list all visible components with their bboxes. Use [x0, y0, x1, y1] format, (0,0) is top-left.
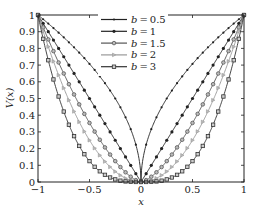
- marker-circle-icon: [62, 72, 66, 76]
- marker-square-icon: [62, 110, 65, 113]
- y-tick-label: 0.4: [19, 110, 35, 121]
- marker-circle-icon: [232, 38, 236, 42]
- marker-square-icon: [88, 159, 91, 162]
- marker-triangle-icon: [196, 130, 199, 134]
- marker-square-icon: [170, 176, 173, 179]
- marker-circle-icon: [83, 112, 87, 116]
- marker-dot-icon: [150, 164, 153, 167]
- marker-square-icon: [93, 165, 96, 168]
- x-tick-label: 1: [241, 184, 247, 195]
- marker-square-icon: [108, 176, 111, 179]
- marker-square-icon: [206, 134, 209, 137]
- x-tick-label: 0.5: [185, 184, 201, 195]
- marker-dot-icon: [176, 82, 178, 84]
- marker-square-icon: [41, 37, 44, 40]
- chart: −1−0.500.5100.10.20.30.40.50.60.70.80.91…: [0, 0, 253, 211]
- marker-dot-icon: [181, 114, 184, 117]
- marker-dot-icon: [47, 30, 50, 33]
- marker-circle-icon: [103, 146, 107, 150]
- marker-circle-icon: [175, 146, 179, 150]
- marker-circle-icon: [119, 165, 123, 169]
- marker-dot-icon: [103, 122, 106, 125]
- marker-dot-icon: [52, 38, 55, 41]
- marker-dot-icon: [212, 41, 214, 43]
- marker-dot-icon: [232, 30, 235, 33]
- marker-dot-icon: [78, 80, 81, 83]
- legend: b = 0.5b = 1b = 1.5b = 2b = 3: [98, 14, 168, 76]
- marker-dot-icon: [150, 128, 152, 130]
- marker-dot-icon: [114, 139, 117, 142]
- marker-circle-icon: [191, 121, 195, 125]
- marker-square-icon: [72, 134, 75, 137]
- marker-dot-icon: [160, 147, 163, 150]
- marker-square-icon: [112, 65, 115, 68]
- marker-dot-icon: [222, 47, 225, 50]
- marker-square-icon: [191, 159, 194, 162]
- marker-dot-icon: [191, 63, 193, 65]
- marker-dot-icon: [222, 32, 224, 34]
- marker-dot-icon: [238, 18, 240, 20]
- marker-circle-icon: [88, 121, 92, 125]
- marker-square-icon: [47, 59, 50, 62]
- marker-dot-icon: [124, 155, 127, 158]
- marker-dot-icon: [175, 122, 178, 125]
- marker-dot-icon: [98, 114, 101, 117]
- marker-dot-icon: [129, 164, 132, 167]
- marker-circle-icon: [211, 82, 215, 86]
- marker-dot-icon: [196, 89, 199, 92]
- marker-dot-icon: [58, 32, 60, 34]
- marker-square-icon: [155, 180, 158, 183]
- legend-label: b = 3: [131, 61, 156, 72]
- marker-circle-icon: [129, 175, 133, 179]
- legend-label: b = 0.5: [131, 14, 166, 25]
- x-tick-label: 0: [138, 184, 144, 195]
- marker-circle-icon: [201, 103, 205, 107]
- marker-square-icon: [67, 123, 70, 126]
- marker-circle-icon: [222, 61, 226, 65]
- marker-dot-icon: [67, 64, 70, 67]
- marker-circle-icon: [93, 130, 97, 134]
- y-tick-label: 0.6: [19, 76, 35, 87]
- marker-circle-icon: [170, 153, 174, 157]
- marker-circle-icon: [47, 38, 51, 42]
- marker-square-icon: [52, 78, 55, 81]
- y-tick-label: 0: [29, 177, 35, 188]
- marker-dot-icon: [206, 72, 209, 75]
- marker-dot-icon: [83, 89, 86, 92]
- marker-circle-icon: [206, 93, 210, 97]
- y-tick-label: 0.2: [19, 143, 35, 154]
- legend-label: b = 1.5: [131, 38, 166, 49]
- marker-dot-icon: [217, 55, 220, 58]
- marker-dot-icon: [112, 30, 115, 33]
- marker-circle-icon: [180, 138, 184, 142]
- marker-square-icon: [57, 95, 60, 98]
- marker-dot-icon: [93, 105, 96, 108]
- marker-dot-icon: [170, 130, 173, 133]
- y-tick-label: 0.8: [19, 43, 35, 54]
- marker-square-icon: [186, 165, 189, 168]
- y-tick-label: 0.3: [19, 126, 35, 137]
- marker-circle-icon: [124, 170, 128, 174]
- marker-dot-icon: [63, 36, 65, 38]
- marker-circle-icon: [227, 49, 231, 53]
- x-tick-label: −0.5: [77, 184, 101, 195]
- marker-circle-icon: [160, 165, 164, 169]
- marker-dot-icon: [94, 69, 96, 71]
- marker-square-icon: [175, 173, 178, 176]
- marker-dot-icon: [186, 105, 189, 108]
- marker-square-icon: [217, 110, 220, 113]
- marker-dot-icon: [135, 144, 137, 146]
- marker-dot-icon: [119, 147, 122, 150]
- marker-dot-icon: [78, 52, 80, 54]
- marker-dot-icon: [47, 22, 49, 24]
- marker-square-icon: [227, 78, 230, 81]
- y-tick-label: 0.5: [19, 93, 35, 104]
- marker-triangle-icon: [191, 138, 194, 142]
- x-axis-label: x: [138, 196, 144, 207]
- marker-dot-icon: [145, 144, 147, 146]
- marker-dot-icon: [114, 97, 116, 99]
- marker-dot-icon: [42, 18, 44, 20]
- marker-square-icon: [232, 59, 235, 62]
- marker-dot-icon: [134, 172, 137, 175]
- marker-dot-icon: [73, 46, 75, 48]
